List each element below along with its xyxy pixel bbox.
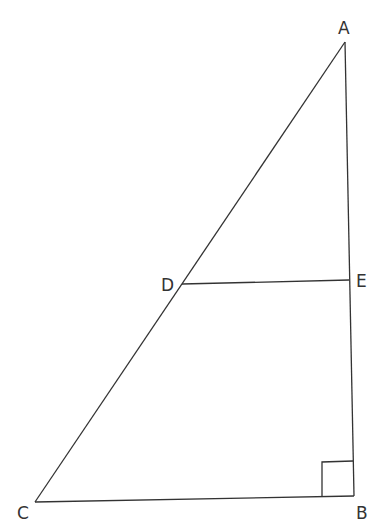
segment-ab [345, 42, 354, 496]
label-c: C [17, 503, 29, 523]
label-b: B [356, 503, 368, 523]
geometry-diagram: A B C D E [0, 0, 385, 525]
segment-de [182, 280, 349, 284]
segment-ca [35, 42, 345, 502]
label-a: A [338, 18, 350, 38]
label-d: D [161, 275, 174, 295]
right-angle-marker [322, 461, 353, 497]
segment-bc [35, 496, 354, 502]
label-e: E [356, 271, 367, 291]
